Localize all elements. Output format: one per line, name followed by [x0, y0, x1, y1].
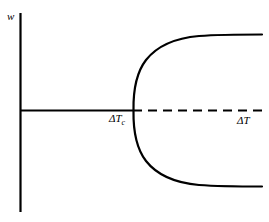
- x-axis-label: ΔT: [237, 115, 250, 126]
- upper-branch-curve: [133, 35, 262, 111]
- critical-point-label: ΔTc: [109, 113, 125, 127]
- bifurcation-diagram-figure: w ΔTc ΔT: [0, 0, 269, 222]
- plot-canvas: [0, 0, 269, 222]
- x-axis-label-T: T: [243, 114, 249, 126]
- y-axis-label: w: [7, 11, 14, 22]
- critical-point-label-subscript: c: [122, 118, 126, 127]
